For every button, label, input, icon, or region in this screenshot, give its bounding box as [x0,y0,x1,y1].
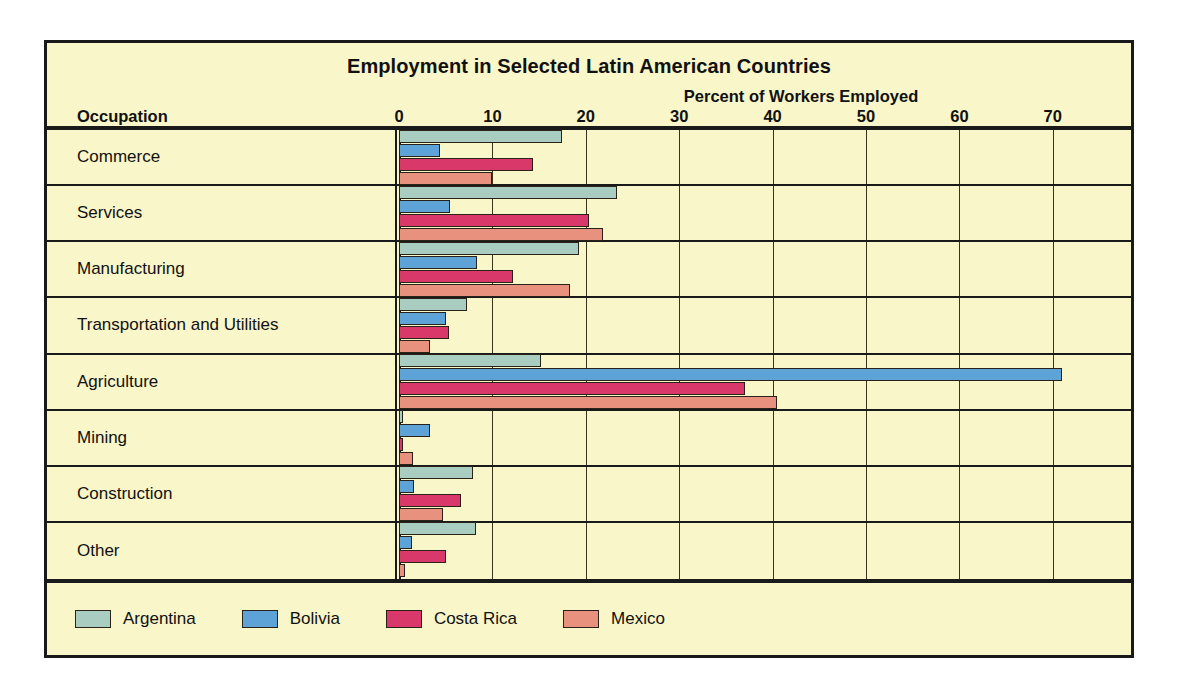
category-label: Construction [77,484,172,504]
legend-label: Costa Rica [434,609,517,629]
bar-argentina [399,410,403,423]
bar-group-other [397,523,1131,579]
category-label-column: CommerceServicesManufacturingTransportat… [47,130,397,579]
x-tick-label-0: 0 [394,107,403,126]
x-tick-label-20: 20 [577,107,595,126]
legend-item-argentina[interactable]: Argentina [75,609,196,629]
bar-group-commerce [397,130,1131,186]
category-row-transportation-and-utilities: Transportation and Utilities [47,298,395,354]
bar-group-agriculture [397,355,1131,411]
x-tick-label-10: 10 [483,107,501,126]
bar-bolivia [399,536,412,549]
bar-group-construction [397,467,1131,523]
category-row-manufacturing: Manufacturing [47,242,395,298]
bar-argentina [399,186,617,199]
category-label: Agriculture [77,372,158,392]
category-label: Manufacturing [77,259,185,279]
bars-region [397,130,1131,579]
bar-costa-rica [399,550,446,563]
bar-group-services [397,186,1131,242]
bar-mexico [399,564,405,577]
legend-swatch-icon [386,610,422,628]
bar-costa-rica [399,158,533,171]
bar-costa-rica [399,382,745,395]
bar-mexico [399,228,603,241]
x-axis-title: Percent of Workers Employed [641,87,961,106]
legend-swatch-icon [563,610,599,628]
x-tick-label-30: 30 [670,107,688,126]
bar-mexico [399,284,570,297]
bar-argentina [399,242,579,255]
bar-bolivia [399,424,430,437]
bar-argentina [399,466,473,479]
legend-swatch-icon [75,610,111,628]
bar-group-mining [397,411,1131,467]
x-tick-label-50: 50 [857,107,875,126]
bar-costa-rica [399,270,513,283]
bar-mexico [399,172,492,185]
category-label: Other [77,541,120,561]
chart-header: Employment in Selected Latin American Co… [47,43,1131,130]
bar-costa-rica [399,438,403,451]
chart-title: Employment in Selected Latin American Co… [47,55,1131,78]
bar-group-manufacturing [397,242,1131,298]
bar-argentina [399,354,541,367]
bar-costa-rica [399,326,449,339]
legend-item-bolivia[interactable]: Bolivia [242,609,340,629]
bar-group-transportation-and-utilities [397,298,1131,354]
category-row-services: Services [47,186,395,242]
bar-costa-rica [399,494,461,507]
category-label: Transportation and Utilities [77,315,279,335]
legend-swatch-icon [242,610,278,628]
category-label: Commerce [77,147,160,167]
x-tick-label-60: 60 [950,107,968,126]
category-label: Mining [77,428,127,448]
bar-bolivia [399,312,446,325]
plot-area: CommerceServicesManufacturingTransportat… [47,130,1131,579]
legend-item-costa-rica[interactable]: Costa Rica [386,609,517,629]
legend-item-mexico[interactable]: Mexico [563,609,665,629]
bar-bolivia [399,256,477,269]
bar-argentina [399,298,467,311]
legend-label: Mexico [611,609,665,629]
chart-container: Employment in Selected Latin American Co… [44,40,1134,658]
category-row-other: Other [47,523,395,579]
bar-bolivia [399,144,440,157]
x-tick-label-40: 40 [763,107,781,126]
bar-bolivia [399,368,1062,381]
category-label: Services [77,203,142,223]
bar-mexico [399,396,777,409]
bar-mexico [399,452,413,465]
category-row-mining: Mining [47,411,395,467]
y-axis-title: Occupation [77,107,168,126]
bar-costa-rica [399,214,589,227]
bar-bolivia [399,200,450,213]
bar-bolivia [399,480,414,493]
x-tick-label-70: 70 [1044,107,1062,126]
bar-argentina [399,522,476,535]
bar-mexico [399,340,430,353]
chart-legend: ArgentinaBoliviaCosta RicaMexico [47,579,1131,655]
category-row-commerce: Commerce [47,130,395,186]
bar-mexico [399,508,443,521]
bar-argentina [399,130,562,143]
category-row-agriculture: Agriculture [47,355,395,411]
category-row-construction: Construction [47,467,395,523]
legend-label: Argentina [123,609,196,629]
legend-label: Bolivia [290,609,340,629]
